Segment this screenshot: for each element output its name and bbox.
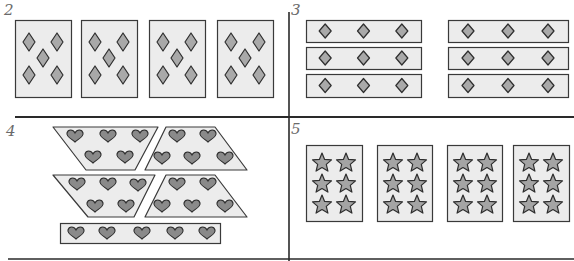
heart-trapezoid <box>145 127 247 170</box>
panel-number-3: 3 <box>291 3 301 18</box>
panel-number-2: 2 <box>4 3 14 18</box>
panel-number-4: 4 <box>6 124 16 139</box>
illustration-canvas <box>0 0 574 261</box>
worksheet: 2 3 4 5 <box>0 0 574 261</box>
panel-number-5: 5 <box>291 122 301 137</box>
